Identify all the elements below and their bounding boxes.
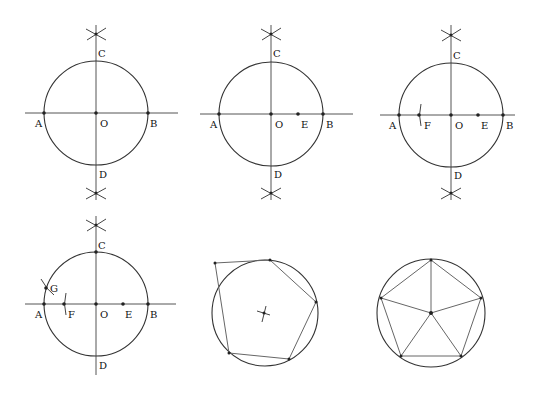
label-o: O: [100, 118, 108, 129]
label-b: B: [326, 119, 333, 130]
point-e: [296, 112, 300, 116]
point-e: [121, 302, 125, 306]
label-a: A: [388, 120, 397, 131]
vertex: [400, 355, 403, 358]
point-o: [449, 113, 453, 117]
label-c: C: [98, 48, 106, 59]
label-g: G: [50, 283, 58, 294]
panel-step-3: A B C D O E F: [380, 25, 515, 200]
label-b: B: [150, 309, 157, 320]
point-b: [146, 302, 150, 306]
label-e: E: [125, 309, 132, 320]
label-c: C: [453, 50, 461, 61]
vertex: [315, 301, 318, 304]
label-f: F: [424, 120, 431, 131]
panel-step-1: A B C D O: [25, 25, 178, 200]
point-a: [42, 111, 46, 115]
label-d: D: [274, 169, 282, 180]
vertex: [228, 352, 231, 355]
vertex: [430, 259, 433, 262]
center-mark: [257, 306, 270, 322]
point-b: [146, 111, 150, 115]
point-b: [321, 112, 325, 116]
label-c: C: [273, 48, 281, 59]
point-f: [62, 302, 66, 306]
label-d: D: [99, 169, 107, 180]
point-a: [217, 112, 221, 116]
label-a: A: [34, 118, 43, 129]
label-a: A: [209, 119, 218, 130]
label-e: E: [301, 119, 308, 130]
label-b: B: [150, 118, 157, 129]
center-point: [429, 311, 433, 315]
point-a: [397, 113, 401, 117]
pentagon-construction-diagram: A B C D O A B C D O E: [0, 0, 538, 395]
point-o: [94, 302, 98, 306]
point-e: [476, 113, 480, 117]
label-f: F: [68, 309, 75, 320]
label-o: O: [455, 120, 463, 131]
label-a: A: [34, 309, 43, 320]
point-a: [42, 302, 46, 306]
vertex: [269, 259, 272, 262]
vertex: [214, 262, 217, 265]
panel-step-2: A B C D O E: [200, 25, 353, 200]
point-o: [94, 111, 98, 115]
label-b: B: [506, 120, 513, 131]
label-o: O: [100, 309, 108, 320]
panel-step-6: [377, 259, 485, 368]
panel-step-4: A B C D O E F G: [25, 216, 176, 375]
label-e: E: [481, 120, 488, 131]
point-g: [44, 286, 48, 290]
vertex: [460, 355, 463, 358]
panel-step-5: [212, 259, 318, 367]
label-d: D: [99, 360, 107, 371]
vertex: [480, 297, 483, 300]
vertex: [288, 358, 291, 361]
label-o: O: [275, 119, 283, 130]
point-f: [417, 113, 421, 117]
label-d: D: [454, 170, 462, 181]
vertex: [380, 297, 383, 300]
label-c: C: [98, 240, 106, 251]
point-o: [269, 112, 273, 116]
point-b: [501, 113, 505, 117]
